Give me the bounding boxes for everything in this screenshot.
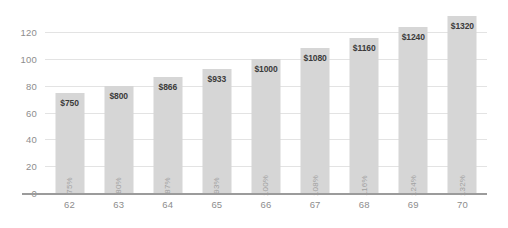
x-axis-line [22, 193, 487, 195]
bar-slot: $1000100% [241, 19, 290, 193]
bar-slot: $1080108% [291, 19, 340, 193]
bar-slot: $93393% [192, 19, 241, 193]
x-axis-tick-label: 67 [310, 199, 321, 210]
bar-value-label: $1000 [254, 64, 277, 74]
bar-slot: $80080% [94, 19, 143, 193]
y-axis-tick-label: 100 [21, 54, 37, 65]
x-axis-tick-label: 65 [211, 199, 222, 210]
x-axis-tick-label: 68 [359, 199, 370, 210]
bar[interactable]: $93393% [202, 69, 231, 193]
bar-slot: $1320132% [438, 19, 487, 193]
bar-slot: $1160116% [340, 19, 389, 193]
bars-layer: $75075%$80080%$86687%$93393%$1000100%$10… [45, 19, 487, 193]
bar[interactable]: $1320132% [448, 16, 477, 193]
bar-slot: $86687% [143, 19, 192, 193]
bar-value-label: $866 [159, 82, 178, 92]
y-axis-tick-label: 40 [26, 134, 37, 145]
bar[interactable]: $1080108% [301, 48, 330, 193]
bar[interactable]: $1000100% [251, 59, 280, 193]
x-axis-tick-label: 63 [113, 199, 124, 210]
bar[interactable]: $86687% [153, 77, 182, 193]
bar-percent-label: 80% [114, 177, 123, 193]
x-axis-tick-label: 64 [162, 199, 173, 210]
x-axis-tick-label: 66 [261, 199, 272, 210]
bar-slot: $1240124% [389, 19, 438, 193]
bar-value-label: $1320 [451, 21, 474, 31]
bar-percent-label: 87% [163, 177, 172, 193]
bar-slot: $75075% [45, 19, 94, 193]
bar[interactable]: $75075% [55, 93, 84, 193]
bar-value-label: $1240 [402, 32, 425, 42]
bar-value-label: $750 [60, 98, 79, 108]
x-axis-tick-label: 62 [64, 199, 75, 210]
y-axis-tick-label: 20 [26, 161, 37, 172]
x-axis-ticks: 626364656667686970 [45, 199, 487, 219]
x-axis-tick-label: 69 [408, 199, 419, 210]
bar-chart: 020406080100120 $75075%$80080%$86687%$93… [0, 0, 508, 228]
bar-percent-label: 93% [212, 177, 221, 193]
bar[interactable]: $1160116% [350, 38, 379, 193]
bar-value-label: $1160 [353, 43, 376, 53]
bar-value-label: $1080 [304, 53, 327, 63]
y-axis-tick-label: 120 [21, 27, 37, 38]
bar[interactable]: $1240124% [399, 27, 428, 193]
bar[interactable]: $80080% [104, 86, 133, 193]
x-axis-tick-label: 70 [457, 199, 468, 210]
bar-value-label: $933 [208, 74, 227, 84]
y-axis-tick-label: 60 [26, 107, 37, 118]
bar-percent-label: 75% [65, 177, 74, 193]
y-axis-tick-label: 80 [26, 80, 37, 91]
bar-value-label: $800 [109, 91, 128, 101]
